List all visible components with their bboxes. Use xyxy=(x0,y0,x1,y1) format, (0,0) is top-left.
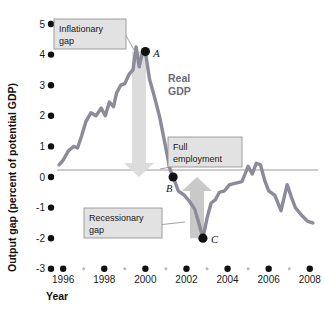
x-tick-label: 1998 xyxy=(93,274,116,285)
x-tick-dot xyxy=(101,266,107,272)
y-tick-label: 2 xyxy=(39,110,45,121)
y-tick-label: 4 xyxy=(39,49,45,60)
y-tick-label: -2 xyxy=(36,233,45,244)
x-minor-tick-dot xyxy=(82,267,85,270)
data-point-marker xyxy=(141,47,150,56)
x-tick-label: 2008 xyxy=(299,274,322,285)
inflationary-gap-text-line2: gap xyxy=(59,36,74,46)
y-tick-dot xyxy=(48,51,54,57)
data-point-label: C xyxy=(211,234,219,245)
y-tick-label: 5 xyxy=(39,19,45,30)
y-tick-dot xyxy=(48,143,54,149)
output-gap-line-chart: 543210-1-2-3 199619982000200220042006200… xyxy=(0,0,325,316)
x-tick-label: 1996 xyxy=(52,274,75,285)
x-minor-tick-dot xyxy=(206,267,209,270)
y-tick-label: -1 xyxy=(36,202,45,213)
y-tick-dot xyxy=(48,21,54,27)
y-tick-dot xyxy=(48,82,54,88)
y-tick-label: 0 xyxy=(39,172,45,183)
recessionary-gap-text-line2: gap xyxy=(89,225,104,235)
x-minor-tick-dot xyxy=(164,267,167,270)
x-tick-label: 2004 xyxy=(216,274,239,285)
x-tick-label: 2002 xyxy=(175,274,198,285)
series-label-line1: Real xyxy=(168,72,190,84)
y-tick-dot xyxy=(48,204,54,210)
x-tick-dot xyxy=(265,266,271,272)
y-tick-label: 1 xyxy=(39,141,45,152)
y-tick-dot xyxy=(48,235,54,241)
data-point-label: B xyxy=(166,183,173,194)
y-tick-label: -3 xyxy=(36,263,45,274)
recessionary-gap-text-line1: Recessionary xyxy=(89,213,144,223)
y-tick-dot xyxy=(48,266,54,272)
y-tick-dot xyxy=(48,113,54,119)
data-point-marker xyxy=(169,172,178,181)
series-label-line2: GDP xyxy=(168,85,191,97)
data-point-label: A xyxy=(152,48,160,59)
x-minor-tick-dot xyxy=(123,267,126,270)
full-employment-text-line2: employment xyxy=(173,154,223,164)
x-tick-dot xyxy=(60,266,66,272)
full-employment-text-line1: Full xyxy=(173,142,188,152)
x-tick-label: 2000 xyxy=(134,274,157,285)
x-tick-dot xyxy=(142,266,148,272)
y-axis-title: Output gap (percent of potential GDP) xyxy=(6,83,18,272)
data-point-marker xyxy=(198,234,207,243)
x-tick-dot xyxy=(224,266,230,272)
x-minor-tick-dot xyxy=(288,267,291,270)
x-tick-dot xyxy=(307,266,313,272)
x-axis-title: Year xyxy=(46,290,68,302)
y-tick-label: 3 xyxy=(39,80,45,91)
y-tick-dot xyxy=(48,174,54,180)
inflationary-gap-text-line1: Inflationary xyxy=(59,24,104,34)
x-tick-label: 2006 xyxy=(258,274,281,285)
x-minor-tick-dot xyxy=(247,267,250,270)
chart-figure: 543210-1-2-3 199619982000200220042006200… xyxy=(0,0,325,316)
x-tick-dot xyxy=(183,266,189,272)
